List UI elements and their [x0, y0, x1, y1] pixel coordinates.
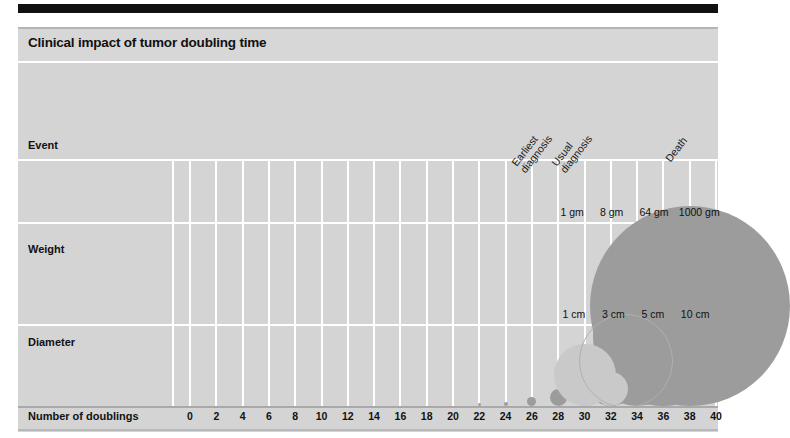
diameter-label-0: 1 cm — [563, 308, 586, 320]
event-label-0: Earliestdiagnosis — [510, 126, 555, 175]
gridline-6 — [268, 159, 270, 406]
weight-label-3: 1000 gm — [679, 206, 720, 218]
gridline-20 — [452, 159, 454, 406]
gridline-left-boundary — [172, 159, 174, 406]
gridline-18 — [426, 159, 428, 406]
weight-label-1: 8 gm — [600, 206, 623, 218]
gridline-16 — [399, 159, 401, 406]
tumor-bubble-26 — [527, 397, 536, 406]
weight-label-2: 64 gm — [639, 206, 668, 218]
diameter-label-1: 3 cm — [602, 308, 625, 320]
diameter-label-2: 5 cm — [641, 308, 664, 320]
gridline-10 — [321, 159, 323, 406]
axis-baseline — [18, 406, 718, 408]
event-label-1: Usualdiagnosis — [549, 126, 594, 175]
bottom-rule — [18, 429, 718, 431]
gridline-12 — [347, 159, 349, 406]
row-label-event: Event — [28, 139, 58, 151]
plot-area: Event Weight Diameter EarliestdiagnosisU… — [18, 63, 718, 432]
axis-tick-40: 40 — [701, 410, 731, 422]
row-label-diameter: Diameter — [28, 336, 75, 348]
row-separator-0 — [18, 159, 718, 161]
gridline-24 — [505, 159, 507, 406]
axis-title: Number of doublings — [28, 410, 139, 422]
figure-title: Clinical impact of tumor doubling time — [28, 35, 266, 50]
gridline-4 — [242, 159, 244, 406]
tumor-bubble-outline-36 — [579, 314, 673, 408]
top-rule — [18, 4, 718, 13]
gridline-14 — [373, 159, 375, 406]
weight-label-0: 1 gm — [561, 206, 584, 218]
gridline-26 — [531, 159, 533, 406]
gridline-8 — [294, 159, 296, 406]
gridline-22 — [478, 159, 480, 406]
figure-panel: Clinical impact of tumor doubling time E… — [18, 27, 718, 432]
row-label-weight: Weight — [28, 243, 64, 255]
diameter-label-3: 10 cm — [681, 308, 710, 320]
gridline-2 — [215, 159, 217, 406]
row-separator-1 — [18, 222, 718, 224]
gridline-0 — [189, 159, 191, 406]
